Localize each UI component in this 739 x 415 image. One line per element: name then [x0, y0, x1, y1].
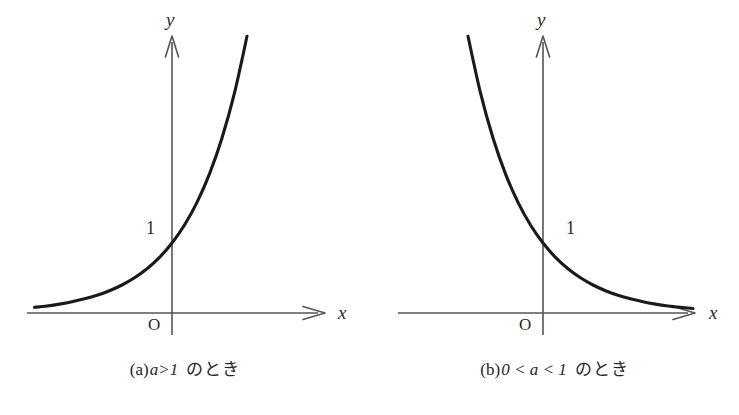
y-axis-a — [165, 36, 178, 335]
y-axis-label: y — [537, 10, 545, 29]
y-axis-b — [536, 36, 549, 335]
y-intercept-tick-label: 1 — [566, 219, 575, 237]
origin-label: O — [148, 316, 160, 333]
caption-a-suffix: のとき — [179, 360, 240, 379]
x-axis-label: x — [709, 303, 717, 322]
y-axis-label: y — [166, 10, 174, 29]
caption-b-suffix: のとき — [568, 360, 629, 379]
x-axis-a — [27, 306, 325, 319]
x-axis-b — [398, 306, 695, 319]
curve-exponential-growth — [35, 36, 248, 307]
caption-a: (a)a>1のとき — [0, 360, 370, 380]
caption-b: (b)0 < a < 1のとき — [370, 360, 739, 380]
chart-panel-a: y x 1 O (a)a>1のとき — [0, 0, 370, 415]
chart-plot-a — [0, 0, 370, 415]
caption-a-condition: a>1 — [149, 360, 179, 379]
caption-b-tag: (b) — [480, 360, 500, 379]
curve-exponential-decay — [468, 36, 693, 308]
caption-b-condition: 0 < a < 1 — [500, 360, 567, 379]
y-intercept-tick-label: 1 — [146, 219, 155, 237]
chart-plot-b — [370, 0, 739, 415]
x-axis-label: x — [338, 303, 346, 322]
chart-panel-b: y x 1 O (b)0 < a < 1のとき — [370, 0, 739, 415]
origin-label: O — [519, 316, 531, 333]
caption-a-tag: (a) — [130, 360, 149, 379]
figure-container: y x 1 O (a)a>1のとき y x 1 O — [0, 0, 739, 415]
